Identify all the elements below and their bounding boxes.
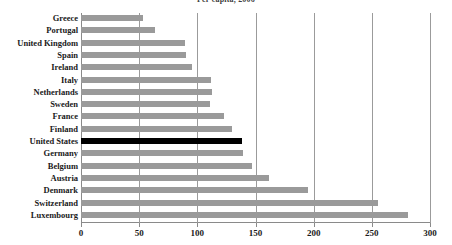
category-label-portugal: Portugal	[0, 26, 78, 35]
category-label-united-states: United States	[0, 137, 78, 146]
category-label-luxembourg: Luxembourg	[0, 211, 78, 220]
bar-united-kingdom	[81, 40, 185, 46]
x-tick-label-0: 0	[79, 228, 84, 238]
bar-belgium	[81, 163, 252, 169]
gridline-300	[430, 13, 431, 223]
category-label-sweden: Sweden	[0, 100, 78, 109]
bar-denmark	[81, 187, 308, 193]
gridline-200	[314, 13, 315, 223]
x-tick-150	[256, 223, 257, 227]
x-tick-200	[314, 223, 315, 227]
category-label-netherlands: Netherlands	[0, 88, 78, 97]
x-tick-label-50: 50	[135, 228, 144, 238]
category-label-switzerland: Switzerland	[0, 199, 78, 208]
category-label-france: France	[0, 112, 78, 121]
bar-portugal	[81, 27, 155, 33]
x-tick-label-150: 150	[249, 228, 263, 238]
bar-germany	[81, 150, 243, 156]
x-tick-50	[139, 223, 140, 227]
x-tick-0	[81, 223, 82, 227]
x-tick-label-300: 300	[423, 228, 437, 238]
x-tick-100	[197, 223, 198, 227]
bar-luxembourg	[81, 212, 408, 218]
bar-ireland	[81, 64, 192, 70]
chart-title: Per capita, 2006	[0, 0, 452, 4]
x-tick-label-100: 100	[191, 228, 205, 238]
category-label-ireland: Ireland	[0, 63, 78, 72]
category-label-italy: Italy	[0, 76, 78, 85]
category-label-germany: Germany	[0, 149, 78, 158]
bar-finland	[81, 126, 232, 132]
bar-austria	[81, 175, 269, 181]
category-label-greece: Greece	[0, 14, 78, 23]
bar-spain	[81, 52, 186, 58]
gridline-250	[372, 13, 373, 223]
x-tick-label-200: 200	[307, 228, 321, 238]
bar-sweden	[81, 101, 210, 107]
bar-united-states	[81, 138, 242, 144]
x-tick-label-250: 250	[365, 228, 379, 238]
bar-greece	[81, 15, 143, 21]
category-label-united-kingdom: United Kingdom	[0, 39, 78, 48]
x-tick-250	[372, 223, 373, 227]
bar-italy	[81, 77, 211, 83]
bar-netherlands	[81, 89, 212, 95]
bar-france	[81, 113, 224, 119]
bar-chart: Per capita, 2006 050100150200250300 Gree…	[0, 0, 452, 245]
category-label-spain: Spain	[0, 51, 78, 60]
x-tick-300	[430, 223, 431, 227]
category-label-belgium: Belgium	[0, 162, 78, 171]
bar-switzerland	[81, 200, 378, 206]
category-label-austria: Austria	[0, 174, 78, 183]
category-label-denmark: Denmark	[0, 186, 78, 195]
category-label-finland: Finland	[0, 125, 78, 134]
